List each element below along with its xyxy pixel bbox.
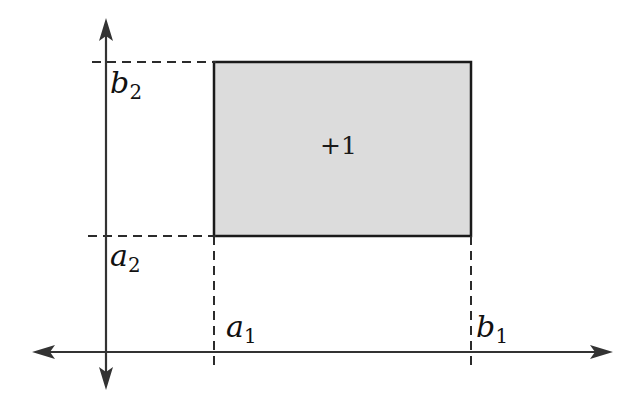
- label-a2: a2: [110, 241, 141, 276]
- label-a1-subscript: 1: [244, 325, 257, 348]
- figure-canvas: b2 a2 a1 b1 +1: [0, 0, 639, 404]
- label-a2-base: a: [110, 238, 128, 273]
- label-b1: b1: [476, 312, 508, 347]
- rectangle-weight-label: +1: [320, 133, 357, 158]
- horizontal-axis: [32, 345, 613, 359]
- label-a2-subscript: 2: [128, 254, 141, 277]
- label-a1: a1: [226, 312, 257, 347]
- label-b1-subscript: 1: [495, 325, 508, 348]
- label-a1-base: a: [226, 309, 244, 344]
- label-b1-base: b: [476, 309, 495, 344]
- label-b2-subscript: 2: [129, 81, 142, 104]
- label-b2: b2: [110, 68, 142, 103]
- diagram-svg: [0, 0, 639, 404]
- label-b2-base: b: [110, 65, 129, 100]
